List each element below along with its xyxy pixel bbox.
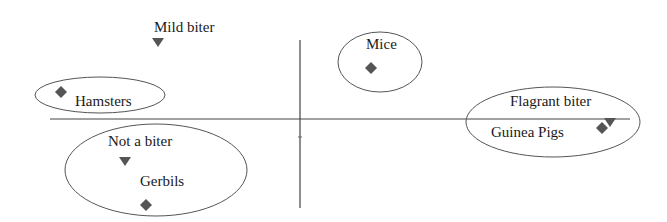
label-mice: Mice — [366, 36, 397, 52]
diamond-marker-hamsters — [55, 86, 67, 98]
triangle-marker-flagrant-biter — [604, 118, 616, 127]
label-flagrant-biter: Flagrant biter — [510, 93, 591, 109]
perceptual-map: Mild biter Hamsters Mice Flagrant biter … — [0, 0, 667, 222]
triangle-marker-mild-biter — [152, 38, 164, 47]
label-not-a-biter: Not a biter — [108, 133, 172, 149]
label-guinea-pigs: Guinea Pigs — [491, 124, 564, 140]
diamond-marker-guinea-pigs — [596, 122, 608, 134]
triangle-marker-not-a-biter — [119, 157, 131, 166]
label-mild-biter: Mild biter — [154, 19, 214, 35]
label-gerbils: Gerbils — [140, 173, 184, 189]
diamond-marker-gerbils — [140, 199, 152, 211]
label-hamsters: Hamsters — [75, 93, 132, 109]
diamond-marker-mice — [365, 62, 377, 74]
